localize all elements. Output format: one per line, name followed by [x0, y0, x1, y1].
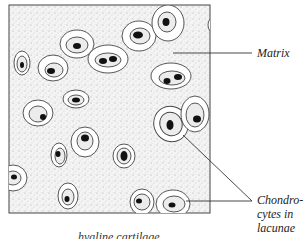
cell [38, 55, 68, 81]
cell [208, 17, 220, 33]
chondrocytes-label-line1: Chondro- [257, 193, 303, 207]
cell [0, 165, 27, 191]
caption-partial: hyaline cartilage [78, 230, 160, 239]
cell [63, 90, 89, 108]
cell [23, 100, 53, 126]
cell [156, 190, 190, 218]
cell [113, 144, 135, 168]
cell [14, 51, 30, 75]
matrix-label: Matrix [257, 46, 290, 60]
cell [88, 45, 128, 73]
cell [151, 63, 191, 89]
chondrocytes-label-line3: lacunae [257, 221, 303, 235]
cell [71, 127, 99, 157]
chondrocytes-label: Chondro- cytes in lacunae [257, 193, 303, 235]
chondrocytes-label-line2: cytes in [257, 207, 303, 221]
cell [58, 183, 78, 209]
cell [152, 5, 184, 41]
cell [130, 189, 154, 215]
cell [181, 96, 209, 132]
cell [51, 143, 67, 167]
cell [122, 21, 156, 51]
